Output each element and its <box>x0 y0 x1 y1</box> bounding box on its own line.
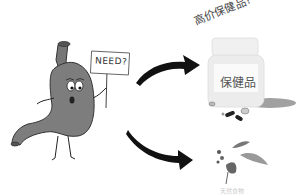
illustration: NEED? 高价保健品? 保健品 天然食物 <box>0 0 298 195</box>
sign-text: NEED? <box>95 55 128 66</box>
arrow-down-icon <box>126 130 193 170</box>
arrow-up-icon <box>136 55 200 86</box>
herb-label: 天然食物 <box>220 186 244 195</box>
herbs <box>217 141 269 184</box>
bottle-label: 保健品 <box>220 73 256 90</box>
